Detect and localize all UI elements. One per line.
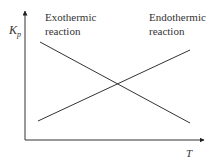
y-axis-label: Kp — [8, 23, 21, 39]
exothermic-line — [40, 42, 190, 123]
endothermic-label-line1: Endothermic — [149, 11, 206, 23]
exothermic-label-line2: reaction — [45, 25, 81, 37]
kp-vs-temperature-diagram: Kp T Exothermic reaction Endothermic rea… — [0, 0, 217, 161]
endothermic-label-line2: reaction — [149, 25, 185, 37]
x-axis-label: T — [186, 147, 193, 159]
exothermic-label-line1: Exothermic — [45, 11, 96, 23]
